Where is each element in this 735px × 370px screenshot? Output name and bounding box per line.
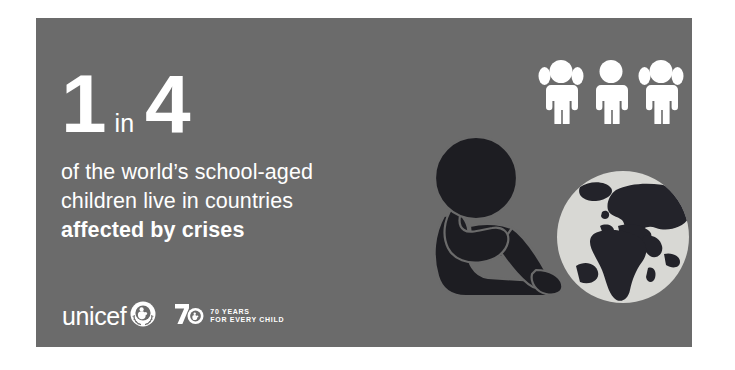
unicef-logo-lockup: unicef [62, 301, 284, 331]
headline-line-3: affected by crises [61, 216, 391, 245]
headline: of the world’s school-aged children live… [61, 158, 391, 244]
un-globe-laurel-emblem [130, 301, 156, 331]
headline-line-1: of the world’s school-aged [61, 158, 391, 187]
statistic-connector: in [106, 111, 145, 136]
statistic-line: 1 in 4 [61, 66, 391, 144]
anniversary-mark-group: 70 YEARS FOR EVERY CHILD [174, 303, 284, 329]
anniversary-tagline: 70 YEARS FOR EVERY CHILD [210, 308, 284, 324]
child-girl-pigtails-icon [638, 58, 684, 128]
globe-europe-africa-asia-icon [556, 170, 690, 308]
text-block: 1 in 4 of the world’s school-aged childr… [61, 66, 391, 244]
seated-child-knees-up-icon [408, 130, 578, 314]
child-girl-pigtails-icon [538, 58, 584, 128]
anniversary-line-1: 70 YEARS [210, 308, 284, 316]
statistic-numerator: 1 [61, 66, 106, 141]
headline-line-2: children live in countries [61, 187, 391, 216]
statistic-denominator: 4 [145, 66, 190, 141]
anniversary-line-2: FOR EVERY CHILD [210, 316, 284, 324]
anniversary-70-mark [174, 303, 204, 329]
unicef-wordmark: unicef [62, 304, 126, 329]
unicef-infographic-poster: 1 in 4 of the world’s school-aged childr… [36, 18, 692, 347]
child-plain-icon [591, 58, 631, 128]
children-pictogram-row [538, 58, 684, 128]
